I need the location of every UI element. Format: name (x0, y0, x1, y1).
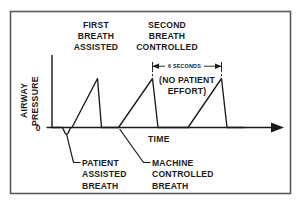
heading-second-breath-line3: CONTROLLED (136, 42, 198, 52)
waveform-first-breath (52, 79, 119, 135)
callout-patient-line3: BREATH (82, 181, 118, 191)
no-patient-effort-line1: (NO PATIENT (159, 75, 215, 85)
callout-machine-line2: CONTROLLED (152, 169, 214, 179)
interval-label: 6 SECONDS (168, 63, 201, 69)
no-patient-effort-line2: EFFORT) (168, 86, 207, 96)
y-axis-label-line2: PRESSURE (30, 76, 40, 126)
x-axis-label: TIME (148, 134, 170, 144)
arrow-right-icon (271, 123, 284, 133)
leader-line-patient-assisted (67, 135, 80, 163)
figure-container: AIRWAY PRESSURE 0 TIME FIRST BREATH ASSI… (0, 0, 301, 210)
callout-machine-line1: MACHINE (152, 158, 194, 168)
heading-first-breath-line2: BREATH (78, 31, 114, 41)
y-axis-label-line1: AIRWAY (19, 83, 29, 118)
callout-patient-line1: PATIENT (82, 158, 119, 168)
arrow-right-icon-interval (215, 64, 222, 69)
y-axis-zero-label: 0 (36, 123, 41, 133)
callout-machine-line3: BREATH (152, 181, 188, 191)
callout-patient-line2: ASSISTED (82, 169, 127, 179)
heading-first-breath-line3: ASSISTED (74, 42, 119, 52)
arrow-left-icon (153, 64, 160, 69)
heading-first-breath-line1: FIRST (83, 20, 109, 30)
heading-second-breath-line2: BREATH (149, 31, 185, 41)
leader-line-machine-controlled (120, 130, 150, 163)
heading-second-breath-line1: SECOND (148, 20, 186, 30)
airway-pressure-chart: AIRWAY PRESSURE 0 TIME FIRST BREATH ASSI… (0, 0, 301, 210)
